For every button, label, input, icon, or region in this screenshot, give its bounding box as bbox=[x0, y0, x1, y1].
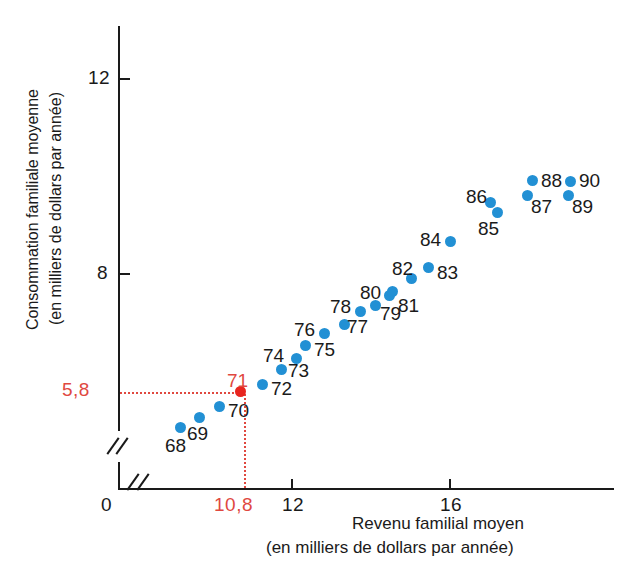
data-point-label-90: 90 bbox=[579, 170, 600, 192]
data-point-69 bbox=[194, 412, 205, 423]
data-point-label-89: 89 bbox=[572, 196, 593, 218]
x-axis-title-sub: (en milliers de dollars par année) bbox=[266, 538, 514, 558]
x-tick-12 bbox=[291, 479, 293, 489]
data-point-74 bbox=[291, 353, 302, 364]
y-axis-title-main: Consommation familiale moyenne bbox=[24, 89, 42, 330]
data-point-label-78: 78 bbox=[330, 296, 351, 318]
data-point-label-81: 81 bbox=[398, 295, 419, 317]
data-point-68 bbox=[175, 422, 186, 433]
data-point-label-82: 82 bbox=[392, 258, 413, 280]
data-point-label-75: 75 bbox=[314, 339, 335, 361]
data-point-label-70: 70 bbox=[228, 400, 249, 422]
data-point-70 bbox=[214, 401, 225, 412]
data-point-83 bbox=[423, 262, 434, 273]
x-tick-16 bbox=[449, 479, 451, 489]
data-point-label-85: 85 bbox=[478, 218, 499, 240]
data-point-label-84: 84 bbox=[420, 229, 441, 251]
data-point-88 bbox=[527, 175, 538, 186]
y-axis-line bbox=[118, 26, 120, 431]
x-tick-label-12: 12 bbox=[282, 494, 304, 516]
highlight-horizontal-guide bbox=[120, 392, 242, 394]
data-point-75 bbox=[300, 340, 311, 351]
scatter-chart: 12 8 5,8 12 16 10,8 0 Consommation famil… bbox=[0, 0, 624, 566]
data-point-label-68: 68 bbox=[165, 435, 186, 457]
data-point-label-77: 77 bbox=[347, 316, 368, 338]
data-point-84 bbox=[445, 236, 456, 247]
data-point-78 bbox=[355, 306, 366, 317]
x-axis-line bbox=[118, 488, 614, 490]
y-tick-8 bbox=[120, 273, 130, 275]
y-axis-title-sub: (en milliers de dollars par année) bbox=[47, 92, 65, 325]
data-point-90 bbox=[565, 176, 576, 187]
x-axis-title-main: Revenu familial moyen bbox=[352, 514, 524, 534]
data-point-label-80: 80 bbox=[360, 282, 381, 304]
data-point-85 bbox=[492, 207, 503, 218]
data-point-81 bbox=[387, 286, 398, 297]
data-point-76 bbox=[319, 328, 330, 339]
y-axis-lower-stub bbox=[118, 462, 120, 490]
data-point-label-88: 88 bbox=[541, 170, 562, 192]
data-point-label-76: 76 bbox=[294, 319, 315, 341]
data-point-label-69: 69 bbox=[187, 423, 208, 445]
data-point-label-74: 74 bbox=[263, 345, 284, 367]
data-point-label-86: 86 bbox=[466, 186, 487, 208]
origin-label: 0 bbox=[101, 494, 112, 516]
data-point-label-71: 71 bbox=[227, 370, 248, 392]
x-axis-break-icon bbox=[128, 472, 156, 502]
y-tick-label-12: 12 bbox=[88, 67, 110, 89]
y-tick-12 bbox=[120, 78, 130, 80]
y-tick-label-8: 8 bbox=[97, 262, 108, 284]
x-tick-label-highlight: 10,8 bbox=[214, 494, 253, 516]
data-point-72 bbox=[257, 379, 268, 390]
data-point-label-83: 83 bbox=[437, 262, 458, 284]
x-tick-label-16: 16 bbox=[440, 494, 462, 516]
y-tick-label-highlight: 5,8 bbox=[62, 379, 90, 401]
y-axis-break-icon bbox=[108, 432, 132, 462]
data-point-label-87: 87 bbox=[531, 196, 552, 218]
